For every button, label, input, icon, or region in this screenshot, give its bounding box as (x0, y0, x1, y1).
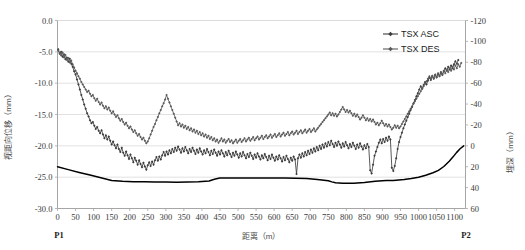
x-tick-label: 100 (87, 212, 100, 222)
displacement-depth-chart: 0501001502002503003504004505005506006507… (0, 0, 525, 250)
chart-canvas: 0501001502002503003504004505005506006507… (0, 0, 525, 250)
y-tick-label: 0.0 (42, 16, 53, 26)
x-tick-label: 950 (394, 212, 407, 222)
bottom-axis-title: 距离（m） (242, 231, 281, 241)
x-tick-label: 750 (322, 212, 335, 222)
y2-tick-label: 40 (471, 183, 480, 193)
x-tick-label: 800 (340, 212, 353, 222)
x-tick-label: 1050 (428, 212, 445, 222)
y-tick-label: -20.0 (35, 141, 53, 151)
y2-tick-label: -80 (471, 57, 482, 67)
y-tick-label: -15.0 (35, 110, 53, 120)
x-tick-label: 0 (55, 212, 59, 222)
end-point-label: P2 (461, 230, 470, 240)
y2-tick-label: 0 (471, 141, 475, 151)
x-tick-label: 350 (177, 212, 190, 222)
y2-tick-label: -100 (471, 36, 487, 46)
x-tick-label: 850 (358, 212, 371, 222)
y-tick-label: -10.0 (35, 78, 53, 88)
x-tick-label: 50 (71, 212, 80, 222)
x-tick-label: 550 (250, 212, 263, 222)
y-tick-label: -5.0 (39, 47, 52, 57)
x-tick-label: 450 (214, 212, 227, 222)
right-axis-title: 埋深（mm） (505, 127, 515, 172)
y2-tick-label: -40 (471, 99, 482, 109)
x-tick-label: 200 (123, 212, 136, 222)
y2-tick-label: -20 (471, 120, 482, 130)
left-axis-title: 视距向位移（mm） (3, 90, 13, 159)
x-tick-label: 500 (232, 212, 245, 222)
x-tick-label: 150 (105, 212, 118, 222)
x-tick-label: 700 (304, 212, 317, 222)
x-tick-label: 1000 (410, 212, 427, 222)
x-tick-label: 900 (376, 212, 389, 222)
y2-tick-label: -60 (471, 78, 482, 88)
y-tick-label: -25.0 (35, 172, 53, 182)
x-tick-label: 600 (268, 212, 281, 222)
start-point-label: P1 (54, 230, 63, 240)
legend-label: TSX ASC (401, 29, 440, 39)
y2-tick-label: -120 (471, 16, 487, 26)
x-tick-label: 650 (286, 212, 299, 222)
legend-label: TSX DES (401, 44, 440, 54)
y2-tick-label: 20 (471, 162, 480, 172)
y2-tick-label: 60 (471, 204, 480, 214)
y-tick-label: -30.0 (35, 204, 53, 214)
x-tick-label: 300 (159, 212, 172, 222)
x-tick-label: 1100 (446, 212, 463, 222)
x-tick-label: 250 (141, 212, 154, 222)
x-tick-label: 400 (196, 212, 209, 222)
